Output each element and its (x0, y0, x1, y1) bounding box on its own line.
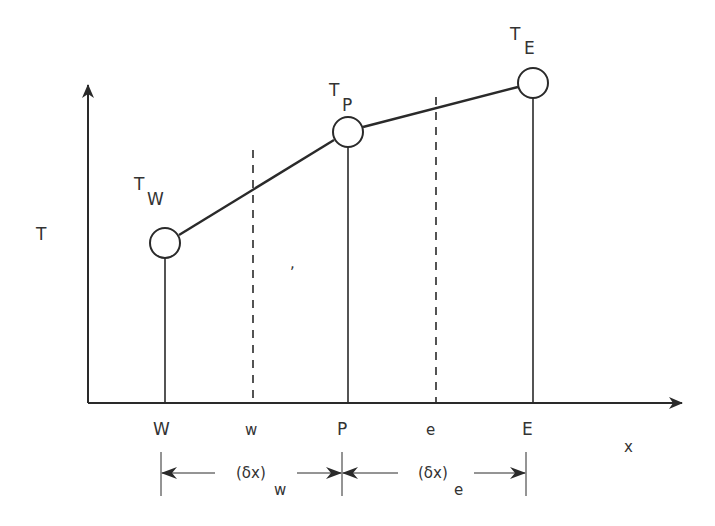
label-te: T E (509, 24, 535, 58)
node-circle-e (518, 68, 548, 98)
diagram-canvas: T x T W T P T E , W w P e E (δx) w (0, 0, 715, 526)
x-axis-label: x (624, 438, 633, 456)
svg-text:T: T (509, 24, 521, 44)
y-axis-label: T (35, 224, 47, 244)
label-tp: T P (328, 80, 352, 115)
svg-text:w: w (274, 481, 286, 499)
svg-text:E: E (524, 38, 535, 58)
dimension-dx-e: (δx) e (343, 464, 525, 499)
svg-text:(δx): (δx) (418, 464, 448, 482)
svg-text:T: T (328, 80, 340, 100)
node-circle-w (150, 228, 180, 258)
axis-label-e-face: e (426, 421, 435, 439)
svg-text:T: T (133, 174, 145, 194)
svg-text:P: P (342, 95, 352, 115)
profile-segment-wp (179, 140, 334, 235)
axis-label-p-node: P (337, 419, 347, 439)
label-tw: T W (133, 174, 164, 209)
axis-label-e-node: E (522, 419, 533, 439)
axis-label-w-face: w (245, 421, 257, 439)
svg-text:e: e (454, 481, 463, 499)
dimension-dx-w: (δx) w (162, 464, 341, 499)
svg-text:(δx): (δx) (236, 464, 266, 482)
stray-mark: , (290, 254, 295, 272)
profile-segment-pe (363, 87, 518, 127)
node-circle-p (333, 117, 363, 147)
axis-label-w-node: W (153, 419, 170, 439)
svg-text:W: W (147, 189, 164, 209)
